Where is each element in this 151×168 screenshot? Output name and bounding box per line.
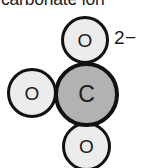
charge-label: 2−	[114, 28, 137, 48]
molecule-diagram: O O O C	[0, 0, 151, 168]
carbonate-ion-figure: carbonate ion O O O C 2−	[0, 0, 151, 168]
atom-label-oxygen-top: O	[78, 31, 93, 50]
atom-label-oxygen-bottom: O	[79, 137, 94, 156]
atom-label-carbon-center: C	[78, 83, 95, 106]
atom-label-oxygen-left: O	[25, 84, 40, 103]
atom-oxygen-bottom: O	[62, 122, 111, 168]
atom-carbon-center: C	[54, 62, 119, 127]
atom-oxygen-left: O	[7, 68, 57, 118]
atom-oxygen-top: O	[61, 16, 109, 64]
